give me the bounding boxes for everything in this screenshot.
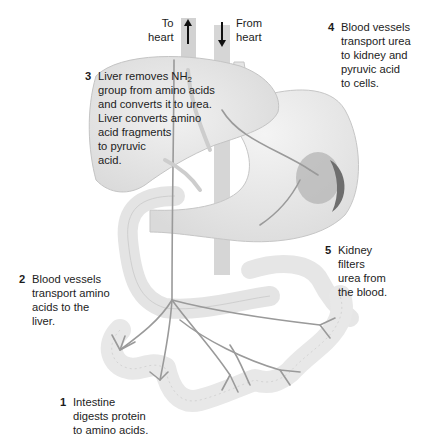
- step-number: 5: [325, 243, 331, 257]
- step-2-label: 2 Blood vessels transport amino acids to…: [32, 272, 110, 328]
- step-1-label: 1 Intestine digests protein to amino aci…: [73, 395, 148, 437]
- step-number: 1: [60, 395, 66, 409]
- step-number: 2: [19, 272, 25, 286]
- step-5-label: 5 Kidney filters urea from the blood.: [338, 243, 387, 299]
- step-3-label: 3 Liver removes NH2 group from amino aci…: [98, 69, 215, 167]
- from-heart-label: From heart: [236, 16, 262, 44]
- step-number: 3: [85, 69, 91, 83]
- step-4-label: 4 Blood vessels transport urea to kidney…: [341, 20, 411, 90]
- to-heart-label: To heart: [154, 16, 174, 44]
- step-number: 4: [328, 20, 334, 34]
